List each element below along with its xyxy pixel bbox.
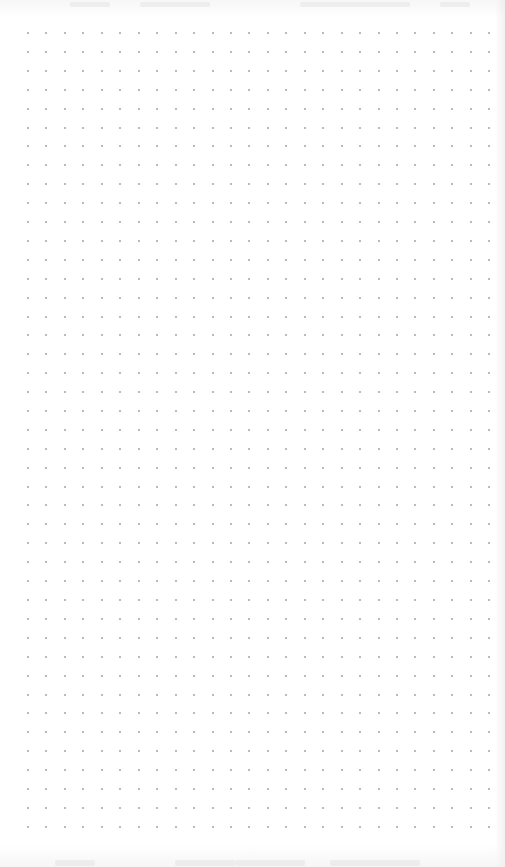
grid-dot: [414, 504, 416, 506]
grid-dot: [470, 259, 472, 261]
grid-dot: [230, 504, 232, 506]
grid-dot: [304, 202, 306, 204]
grid-dot: [267, 712, 269, 714]
grid-dot: [359, 580, 361, 582]
grid-dot: [248, 51, 250, 53]
grid-dot: [156, 694, 158, 696]
grid-dot: [27, 580, 29, 582]
grid-dot: [101, 108, 103, 110]
grid-dot: [82, 202, 84, 204]
grid-dot: [304, 656, 306, 658]
grid-dot: [193, 656, 195, 658]
grid-dot: [45, 523, 47, 525]
grid-dot: [470, 769, 472, 771]
grid-dot: [322, 486, 324, 488]
grid-dot: [212, 599, 214, 601]
grid-dot: [45, 372, 47, 374]
grid-dot: [101, 542, 103, 544]
grid-dot: [267, 731, 269, 733]
grid-dot: [322, 694, 324, 696]
grid-dot: [285, 580, 287, 582]
grid-dot: [433, 278, 435, 280]
grid-dot: [267, 164, 269, 166]
grid-dot: [451, 486, 453, 488]
dot-grid-page[interactable]: [0, 0, 505, 867]
grid-dot: [212, 108, 214, 110]
grid-dot: [414, 523, 416, 525]
grid-dot: [304, 164, 306, 166]
grid-dot: [64, 51, 66, 53]
grid-dot: [27, 164, 29, 166]
grid-dot: [175, 731, 177, 733]
grid-dot: [175, 240, 177, 242]
grid-dot: [378, 108, 380, 110]
grid-dot: [119, 372, 121, 374]
grid-dot: [396, 675, 398, 677]
grid-dot: [359, 618, 361, 620]
grid-dot: [64, 656, 66, 658]
dot-grid[interactable]: [27, 32, 489, 829]
grid-dot: [119, 712, 121, 714]
grid-dot: [248, 675, 250, 677]
grid-dot: [267, 278, 269, 280]
grid-dot: [378, 32, 380, 34]
grid-dot: [341, 108, 343, 110]
grid-dot: [396, 391, 398, 393]
faded-toolbar-item: [140, 2, 210, 7]
grid-dot: [359, 410, 361, 412]
grid-dot: [285, 504, 287, 506]
grid-dot: [212, 580, 214, 582]
grid-dot: [378, 278, 380, 280]
grid-dot: [119, 637, 121, 639]
grid-dot: [341, 334, 343, 336]
grid-dot: [322, 164, 324, 166]
grid-dot: [267, 51, 269, 53]
grid-dot: [64, 32, 66, 34]
grid-dot: [304, 618, 306, 620]
grid-dot: [64, 391, 66, 393]
grid-dot: [285, 240, 287, 242]
grid-dot: [248, 145, 250, 147]
grid-dot: [230, 334, 232, 336]
grid-dot: [470, 637, 472, 639]
grid-dot: [451, 788, 453, 790]
grid-dot: [451, 278, 453, 280]
grid-dot: [433, 675, 435, 677]
grid-dot: [433, 108, 435, 110]
grid-dot: [359, 523, 361, 525]
grid-dot: [248, 240, 250, 242]
grid-dot: [267, 580, 269, 582]
grid-dot: [193, 580, 195, 582]
grid-dot: [119, 316, 121, 318]
grid-dot: [82, 429, 84, 431]
grid-dot: [414, 240, 416, 242]
grid-dot: [359, 599, 361, 601]
grid-dot: [322, 807, 324, 809]
grid-dot: [378, 145, 380, 147]
grid-dot: [414, 731, 416, 733]
grid-dot: [248, 334, 250, 336]
grid-dot: [119, 542, 121, 544]
grid-dot: [156, 788, 158, 790]
grid-dot: [304, 731, 306, 733]
grid-dot: [322, 675, 324, 677]
grid-dot: [433, 183, 435, 185]
grid-dot: [396, 599, 398, 601]
grid-dot: [212, 504, 214, 506]
grid-dot: [101, 410, 103, 412]
grid-dot: [212, 164, 214, 166]
grid-dot: [156, 448, 158, 450]
grid-dot: [378, 788, 380, 790]
grid-dot: [267, 750, 269, 752]
grid-dot: [341, 259, 343, 261]
grid-dot: [341, 618, 343, 620]
grid-dot: [175, 372, 177, 374]
grid-dot: [45, 580, 47, 582]
grid-dot: [101, 89, 103, 91]
grid-dot: [414, 51, 416, 53]
grid-dot: [414, 750, 416, 752]
grid-dot: [175, 410, 177, 412]
faded-bottom-toolbar: [0, 845, 505, 867]
grid-dot: [396, 542, 398, 544]
grid-dot: [322, 504, 324, 506]
